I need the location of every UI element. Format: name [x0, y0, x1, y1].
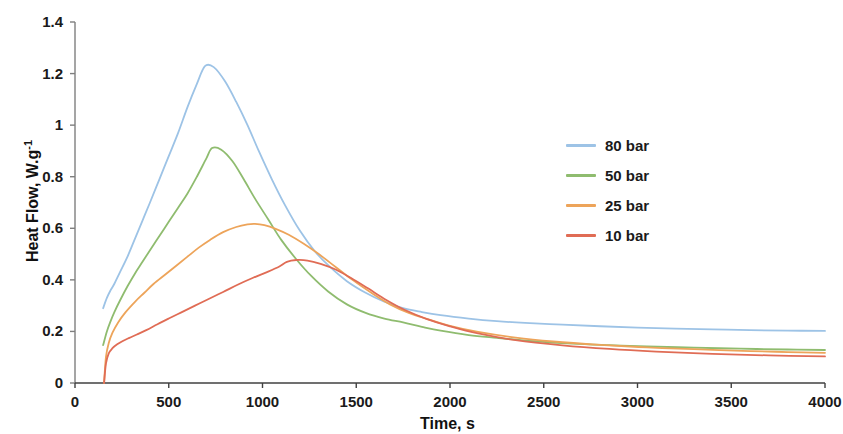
legend: 80 bar50 bar25 bar10 bar — [566, 130, 726, 250]
legend-item[interactable]: 10 bar — [566, 220, 726, 250]
legend-label: 50 bar — [605, 167, 649, 184]
y-axis-tick-label: 1.4 — [0, 13, 63, 30]
legend-swatch-icon — [566, 144, 596, 147]
y-axis-tick-label: 0.2 — [0, 322, 63, 339]
legend-item[interactable]: 80 bar — [566, 130, 726, 160]
series-line-10-bar — [104, 260, 825, 383]
x-axis-tick-label: 500 — [129, 393, 209, 410]
legend-label: 80 bar — [605, 137, 649, 154]
x-axis-tick-label: 3500 — [691, 393, 771, 410]
x-axis-tick-label: 2500 — [504, 393, 584, 410]
x-axis-tick-label: 3000 — [598, 393, 678, 410]
y-axis-tick-label: 0.4 — [0, 271, 63, 288]
y-axis-tick-label: 0.8 — [0, 168, 63, 185]
legend-swatch-icon — [566, 204, 596, 207]
x-axis-tick-label: 4000 — [785, 393, 843, 410]
y-axis-tick-label: 1.2 — [0, 65, 63, 82]
x-axis-tick-label: 0 — [35, 393, 115, 410]
legend-swatch-icon — [566, 234, 596, 237]
x-axis-tick-label: 2000 — [410, 393, 490, 410]
legend-label: 25 bar — [605, 197, 649, 214]
y-axis-tick-label: 0.6 — [0, 219, 63, 236]
legend-item[interactable]: 25 bar — [566, 190, 726, 220]
legend-item[interactable]: 50 bar — [566, 160, 726, 190]
x-axis-tick-label: 1500 — [316, 393, 396, 410]
y-axis-tick-label: 0 — [0, 374, 63, 391]
heat-flow-chart: Heat Flow, W.g-1 Time, s 00.20.40.60.811… — [0, 0, 843, 434]
x-axis-tick-label: 1000 — [223, 393, 303, 410]
legend-swatch-icon — [566, 174, 596, 177]
y-axis-tick-label: 1 — [0, 116, 63, 133]
legend-label: 10 bar — [605, 227, 649, 244]
